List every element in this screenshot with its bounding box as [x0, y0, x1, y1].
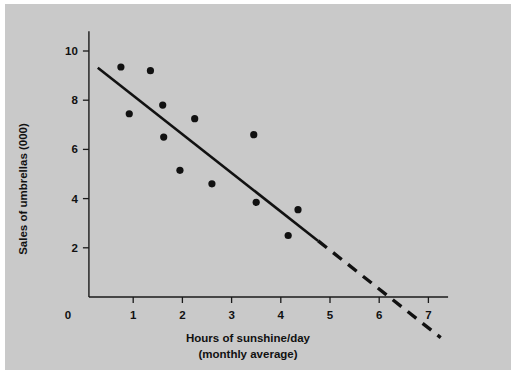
figure-screenshot: 246810 01234567 Sales of umbrellas (000)… — [0, 0, 516, 377]
trend-line-dashed-extrapolation — [318, 241, 441, 338]
x-axis-ticks — [133, 297, 428, 303]
data-point — [176, 167, 183, 174]
x-tick-label-3: 3 — [228, 309, 234, 321]
x-axis-title-line1: Hours of sunshine/day — [186, 332, 311, 344]
chart-panel: 246810 01234567 Sales of umbrellas (000)… — [5, 4, 511, 370]
y-axis-ticks — [83, 51, 89, 248]
data-point — [285, 232, 292, 239]
x-tick-label-0: 0 — [65, 309, 71, 321]
x-tick-label-7: 7 — [425, 309, 431, 321]
data-point — [208, 180, 215, 187]
data-point — [160, 134, 167, 141]
data-point — [294, 206, 301, 213]
y-tick-label-2: 2 — [72, 242, 78, 254]
data-point — [126, 110, 133, 117]
y-tick-label-8: 8 — [72, 94, 79, 106]
data-point — [250, 131, 257, 138]
data-point — [117, 63, 124, 70]
y-tick-label-10: 10 — [65, 45, 78, 57]
data-point — [191, 115, 198, 122]
trend-line-solid — [98, 68, 318, 241]
x-tick-label-2: 2 — [179, 309, 185, 321]
x-axis-title-line2: (monthly average) — [198, 348, 297, 360]
y-tick-label-6: 6 — [72, 143, 78, 155]
x-tick-label-5: 5 — [327, 309, 334, 321]
y-axis-title: Sales of umbrellas (000) — [17, 123, 29, 255]
x-tick-label-6: 6 — [376, 309, 382, 321]
x-tick-label-4: 4 — [278, 309, 285, 321]
x-tick-label-1: 1 — [130, 309, 137, 321]
data-point — [147, 67, 154, 74]
data-point — [253, 199, 260, 206]
data-points-group — [117, 63, 301, 239]
y-tick-label-4: 4 — [72, 193, 79, 205]
data-point — [159, 102, 166, 109]
x-axis-tick-labels: 01234567 — [65, 309, 432, 321]
scatter-plot: 246810 01234567 Sales of umbrellas (000)… — [5, 4, 511, 370]
y-axis-tick-labels: 246810 — [65, 45, 78, 254]
